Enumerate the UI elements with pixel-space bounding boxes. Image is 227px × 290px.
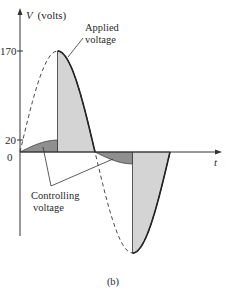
y-axis-arrow-icon (18, 8, 23, 15)
controlling-voltage-label-line1: Controlling (31, 190, 80, 201)
y-axis-label: V (volts) (26, 9, 67, 22)
y-axis-var: V (26, 9, 34, 21)
tick-label-170: 170 (0, 45, 17, 57)
x-axis-label: t (214, 156, 218, 168)
x-axis-arrow-icon (215, 150, 222, 155)
applied-voltage-positive-region (58, 51, 96, 152)
tick-label-20: 20 (5, 134, 17, 146)
tick-label-0: 0 (7, 151, 13, 163)
applied-voltage-label-line2: voltage (85, 34, 116, 45)
controlling-voltage-negative-region (95, 152, 133, 164)
applied-voltage-pointer (68, 38, 83, 57)
y-axis-unit: (volts) (37, 9, 66, 22)
controlling-voltage-label-line2: voltage (33, 202, 64, 213)
applied-voltage-negative-region (133, 152, 171, 253)
controlling-voltage-positive-region (20, 140, 58, 152)
waveform-diagram: V (volts) t 170 20 0 Applied voltage Con… (0, 0, 227, 290)
applied-voltage-label-line1: Applied (85, 22, 120, 33)
figure-caption: (b) (107, 276, 120, 288)
